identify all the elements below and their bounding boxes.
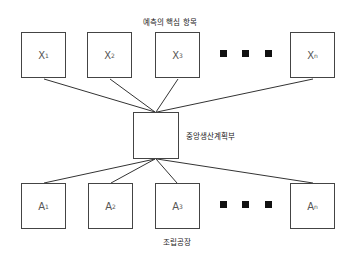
center-label: 중앙생산계획부 [186,130,235,141]
box-letter: X [104,50,111,61]
ellipsis-dot-icon [242,50,249,57]
bottom-box-n: An [290,183,335,229]
box-subscript: n [314,52,318,59]
center-box [133,112,179,159]
ellipsis-dot-icon [220,201,227,208]
box-letter: A [307,201,314,212]
top-box-2: X2 [87,32,132,78]
bottom-box-1: A1 [21,183,66,229]
box-subscript: 2 [111,52,115,59]
box-letter: X [307,50,314,61]
box-subscript: 3 [179,52,183,59]
top-box-n: Xn [290,32,335,78]
bottom-box-3: A3 [155,183,200,229]
box-subscript: 2 [112,203,116,210]
box-letter: X [172,50,179,61]
ellipsis-dot-icon [242,201,249,208]
box-subscript: 3 [179,203,183,210]
box-letter: A [105,201,112,212]
box-letter: A [172,201,179,212]
ellipsis-dot-icon [265,50,272,57]
box-letter: X [38,50,45,61]
box-letter: A [38,201,45,212]
ellipsis-dot-icon [265,201,272,208]
ellipsis-dot-icon [220,50,227,57]
top-box-3: X3 [155,32,200,78]
bottom-box-2: A2 [88,183,133,229]
box-subscript: n [314,203,318,210]
bottom-label: 조립공장 [163,236,191,247]
box-subscript: 1 [45,52,49,59]
top-title: 예측의 핵심 항목 [143,16,197,27]
box-subscript: 1 [45,203,49,210]
top-box-1: X1 [21,32,66,78]
